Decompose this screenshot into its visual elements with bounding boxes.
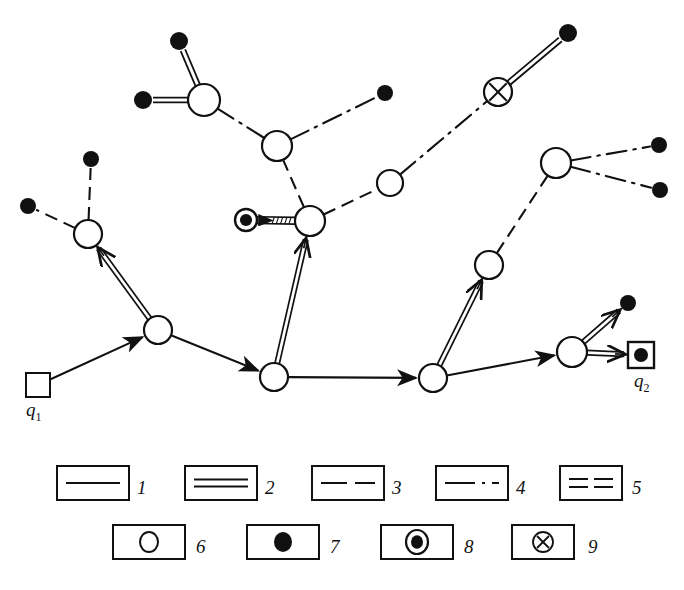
legend-dashed-line-number: 3 xyxy=(392,477,402,499)
q2-label: q2 xyxy=(634,370,650,396)
link-x1-to-t6 xyxy=(507,38,562,85)
link-n11-to-q2 xyxy=(587,350,624,356)
legend-solid-line-number: 1 xyxy=(137,477,147,499)
link-n3-to-n4 xyxy=(275,239,308,364)
link-n9-to-n10 xyxy=(497,176,548,253)
legend-dash-dot-line[interactable] xyxy=(436,466,508,500)
legend-dash-dot-line-number: 4 xyxy=(516,477,526,499)
figure-root: q1 q2 123456789 xyxy=(0,0,684,590)
legend-filled-circle-number: 7 xyxy=(330,536,340,558)
node-upper-left-star[interactable] xyxy=(188,84,220,116)
link-n1-to-t1 xyxy=(89,168,91,220)
legend-solid-line[interactable] xyxy=(57,466,129,500)
terminal-top-left-west[interactable] xyxy=(20,198,36,214)
q2-destination-marker[interactable] xyxy=(628,342,654,368)
terminal-north-upper[interactable] xyxy=(170,32,188,50)
terminal-north-west[interactable] xyxy=(134,91,152,109)
network-diagram-canvas xyxy=(0,0,684,590)
node-left-junction[interactable] xyxy=(144,316,172,344)
node-right-middle[interactable] xyxy=(475,251,503,279)
link-n10-to-t7 xyxy=(571,147,650,161)
node-center-hatched-hub[interactable] xyxy=(295,206,325,236)
q1-label: q1 xyxy=(26,399,42,425)
link-n2-to-n1 xyxy=(97,247,152,320)
legend-double-line-number: 2 xyxy=(265,477,275,499)
link-n6-to-t3 xyxy=(181,49,200,86)
link-n4-to-n5 xyxy=(283,161,304,208)
legend-bullseye[interactable] xyxy=(381,525,453,559)
node-center-upper[interactable] xyxy=(262,131,292,161)
legend-double-dash-number: 5 xyxy=(632,477,642,499)
link-n4-to-bullseye xyxy=(257,217,295,224)
terminal-right-upper[interactable] xyxy=(651,137,667,153)
terminal-center-east[interactable] xyxy=(377,85,393,101)
link-n8-to-n9 xyxy=(437,280,483,366)
node-upper-left-hub[interactable] xyxy=(74,220,102,248)
legend-filled-circle[interactable] xyxy=(247,525,319,559)
legend-open-circle-number: 6 xyxy=(196,536,206,558)
legend-crossed-circle-number: 9 xyxy=(588,536,598,558)
terminal-top-left-upper[interactable] xyxy=(83,151,99,167)
legend-double-dash[interactable] xyxy=(560,466,622,500)
legend-bullseye-number: 8 xyxy=(464,536,474,558)
link-q1-to-n2 xyxy=(49,337,143,380)
link-n3-to-n8 xyxy=(288,377,416,378)
link-n2-to-n3 xyxy=(171,335,258,370)
terminal-bullseye-center[interactable] xyxy=(235,209,257,231)
node-right-bottom[interactable] xyxy=(419,364,447,392)
nodes-layer xyxy=(20,24,668,397)
node-mid-right[interactable] xyxy=(377,170,403,196)
legend-open-circle[interactable] xyxy=(113,525,185,559)
q1-source-marker[interactable] xyxy=(26,373,50,397)
node-right-star[interactable] xyxy=(541,148,571,178)
legend-double-line[interactable] xyxy=(185,466,257,500)
links-layer xyxy=(36,38,651,380)
link-n4-to-n7 xyxy=(324,189,378,215)
link-n10-to-t8 xyxy=(571,167,652,188)
link-n6-to-t4 xyxy=(153,98,188,103)
legend-dashed-line[interactable] xyxy=(312,466,384,500)
terminal-right-lower[interactable] xyxy=(652,182,668,198)
node-right-lower[interactable] xyxy=(557,337,587,367)
legend-crossed-circle[interactable] xyxy=(512,525,574,559)
link-n5-to-t5 xyxy=(290,97,376,139)
link-n1-to-t2 xyxy=(36,210,75,228)
terminal-crossed-northeast[interactable] xyxy=(559,24,577,42)
link-n8-to-n11 xyxy=(447,355,555,375)
link-n5-to-n6 xyxy=(218,109,264,138)
node-crossed-circle[interactable] xyxy=(484,78,512,106)
node-center-bottom[interactable] xyxy=(260,363,288,391)
terminal-q2-north[interactable] xyxy=(620,295,636,311)
link-n7-to-x1 xyxy=(400,102,487,175)
link-n11-to-t9 xyxy=(582,309,621,344)
